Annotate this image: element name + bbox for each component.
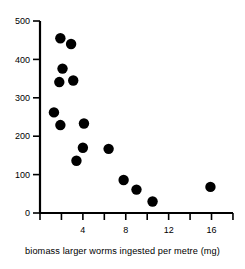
data-point	[55, 33, 65, 43]
data-point	[79, 118, 89, 128]
x-tick-label: 12	[164, 225, 174, 235]
y-axis-tick-labels: 0100200300400500	[15, 16, 30, 218]
data-point	[131, 184, 141, 194]
y-tick-label: 100	[15, 170, 30, 180]
x-axis-title: biomass larger worms ingested per metre …	[0, 246, 245, 256]
data-point	[55, 120, 65, 130]
plot-canvas: 0100200300400500 481216	[0, 0, 245, 269]
x-tick-label: 8	[123, 225, 128, 235]
axes-group	[39, 21, 233, 213]
data-point	[78, 143, 88, 153]
data-points-group	[49, 33, 216, 207]
x-tick-label: 4	[80, 225, 85, 235]
data-point	[68, 75, 78, 85]
data-point	[118, 175, 128, 185]
data-point	[49, 107, 59, 117]
data-point	[54, 77, 64, 87]
y-tick-label: 500	[15, 16, 30, 26]
y-tick-label: 200	[15, 131, 30, 141]
y-tick-label: 0	[25, 208, 30, 218]
data-point	[71, 156, 81, 166]
y-tick-label: 300	[15, 93, 30, 103]
x-axis-tick-labels: 481216	[80, 225, 216, 235]
scatter-plot-figure: 0100200300400500 481216 biomass larger w…	[0, 0, 245, 269]
data-point	[57, 63, 67, 73]
data-point	[147, 196, 157, 206]
x-tick-label: 16	[207, 225, 217, 235]
data-point	[66, 39, 76, 49]
data-point	[205, 182, 215, 192]
y-tick-label: 400	[15, 55, 30, 65]
data-point	[103, 144, 113, 154]
